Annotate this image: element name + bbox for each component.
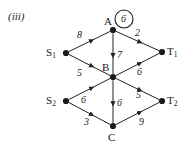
edge-weight-s1-b: 5 bbox=[77, 68, 82, 78]
node-s2 bbox=[63, 98, 69, 104]
node-label-t1: T1 bbox=[167, 46, 177, 58]
part-label: (iii) bbox=[8, 11, 25, 22]
edge-weight-a-t1: 2 bbox=[135, 28, 140, 38]
node-label-t1-subscript: 1 bbox=[174, 50, 178, 59]
node-b bbox=[110, 74, 116, 80]
node-label-s2: S2 bbox=[46, 95, 56, 107]
edge-weight-b-t1: 6 bbox=[137, 67, 142, 77]
node-s1 bbox=[63, 50, 69, 56]
edge-s2-b bbox=[69, 78, 110, 99]
node-label-t2-subscript: 2 bbox=[174, 99, 178, 108]
node-label-b-text: B bbox=[102, 61, 109, 73]
node-label-a: A bbox=[104, 16, 112, 27]
node-label-b: B bbox=[102, 62, 109, 73]
node-label-t1-text: T bbox=[167, 45, 174, 57]
node-label-c: C bbox=[108, 132, 115, 143]
edge-weight-s2-c: 3 bbox=[84, 117, 89, 127]
edge-weight-s2-b: 6 bbox=[81, 95, 86, 105]
node-t2 bbox=[159, 98, 165, 104]
node-label-t2-text: T bbox=[167, 94, 174, 106]
node-label-t2: T2 bbox=[167, 95, 177, 107]
edge-weight-b-c: 6 bbox=[117, 98, 122, 108]
edge-c-t2 bbox=[116, 102, 159, 124]
node-label-s1: S1 bbox=[46, 47, 56, 59]
flow-network-diagram bbox=[0, 0, 188, 153]
edge-weight-b-t2: 5 bbox=[136, 90, 141, 100]
edge-s2-c bbox=[69, 103, 110, 125]
node-a bbox=[110, 27, 116, 33]
edge-s1-a bbox=[69, 31, 110, 51]
circled-capacity-label: 6 bbox=[121, 14, 126, 24]
node-c bbox=[110, 123, 116, 129]
edge-weight-c-t2: 9 bbox=[139, 117, 144, 127]
node-label-a-text: A bbox=[104, 15, 112, 27]
node-t1 bbox=[159, 49, 165, 55]
node-label-s1-subscript: 1 bbox=[52, 51, 56, 60]
node-group bbox=[63, 27, 165, 129]
node-label-s2-subscript: 2 bbox=[52, 99, 56, 108]
edge-weight-s1-a: 8 bbox=[77, 30, 82, 40]
node-label-c-text: C bbox=[108, 131, 115, 143]
edge-weight-a-b: 7 bbox=[117, 50, 122, 60]
